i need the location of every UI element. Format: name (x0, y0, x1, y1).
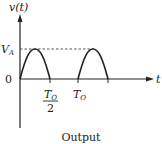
y-axis-arrow-icon (18, 14, 23, 22)
x-axis-arrow-icon (146, 77, 154, 82)
waveform-diagram: v(t) VA 0 t TO 2 TO Output (0, 0, 162, 144)
origin-label: 0 (5, 73, 12, 86)
waveform-hump-2 (78, 49, 108, 79)
svg-text:2: 2 (47, 102, 54, 115)
y-axis-label: v(t) (9, 1, 28, 14)
svg-text:TO: TO (44, 88, 57, 102)
figure-caption: Output (61, 131, 101, 144)
peak-label: VA (1, 43, 14, 57)
waveform-hump-1 (20, 49, 50, 79)
tick-label-half-period: TO 2 (43, 88, 58, 115)
tick-label-period: TO (73, 88, 86, 102)
x-axis-label: t (156, 73, 161, 86)
